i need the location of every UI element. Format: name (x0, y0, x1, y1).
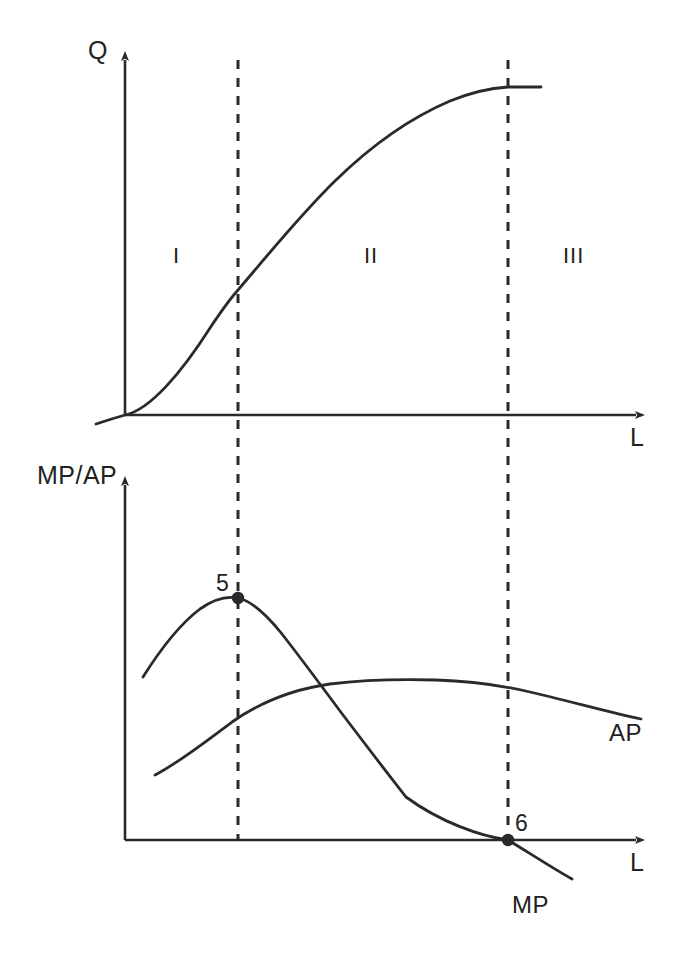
bottom-x-axis-label: L (630, 850, 644, 875)
average-product-curve (155, 680, 641, 775)
stage-dividers (238, 60, 508, 840)
bottom-panel-mp-ap (125, 485, 641, 879)
stage-label-1: I (173, 245, 180, 267)
stage-label-3: III (563, 245, 584, 267)
mp-curve-label: MP (512, 893, 549, 917)
ap-curve-label: AP (609, 721, 642, 745)
point-5-label: 5 (216, 572, 229, 595)
production-stages-figure: Q L MP/AP L I II III 5 6 AP MP (0, 0, 682, 961)
bottom-y-axis-label: MP/AP (37, 463, 117, 488)
top-y-axis-label: Q (88, 38, 108, 63)
top-panel-total-product (96, 60, 636, 424)
stage-label-2: II (364, 245, 378, 267)
total-product-curve (96, 87, 541, 424)
top-x-axis-label: L (630, 425, 644, 450)
point-6-label: 6 (515, 812, 528, 835)
